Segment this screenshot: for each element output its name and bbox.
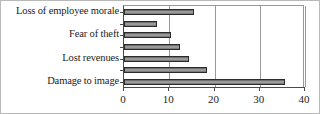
- value-tick: [168, 87, 169, 91]
- category-tick: [120, 59, 124, 60]
- category-tick: [120, 47, 124, 48]
- plot-area: [123, 5, 304, 87]
- bar-chart-figure: Loss of employee moraleFear of theftLost…: [0, 0, 320, 114]
- value-tick-label: 40: [299, 93, 310, 105]
- category-tick: [120, 24, 124, 25]
- bar-row: [124, 32, 305, 38]
- value-tick: [304, 87, 305, 91]
- bar-row: [124, 9, 305, 15]
- value-tick: [259, 87, 260, 91]
- bar-row: [124, 44, 305, 50]
- bar-row: [124, 21, 305, 27]
- bar: [124, 9, 194, 15]
- category-label: Fear of theft: [69, 28, 119, 39]
- bar: [124, 67, 207, 73]
- category-label: Damage to image: [47, 75, 119, 86]
- value-tick: [123, 87, 124, 91]
- bar-row: [124, 56, 305, 62]
- category-axis: Loss of employee moraleFear of theftLost…: [1, 5, 121, 87]
- category-label: Loss of employee morale: [16, 5, 119, 16]
- category-label: Lost revenues: [62, 52, 119, 63]
- bar-row: [124, 79, 305, 85]
- value-tick-label: 10: [163, 93, 174, 105]
- bar-row: [124, 67, 305, 73]
- category-tick: [120, 12, 124, 13]
- value-tick: [214, 87, 215, 91]
- bar: [124, 56, 189, 62]
- category-tick: [120, 70, 124, 71]
- value-tick-label: 20: [208, 93, 219, 105]
- gridline: [305, 6, 306, 87]
- bar: [124, 44, 180, 50]
- bar: [124, 21, 157, 27]
- value-tick-label: 30: [253, 93, 264, 105]
- bar: [124, 79, 285, 85]
- category-tick: [120, 35, 124, 36]
- category-tick: [120, 82, 124, 83]
- value-tick-label: 0: [120, 93, 126, 105]
- value-axis: 010203040: [123, 87, 304, 113]
- bar: [124, 32, 171, 38]
